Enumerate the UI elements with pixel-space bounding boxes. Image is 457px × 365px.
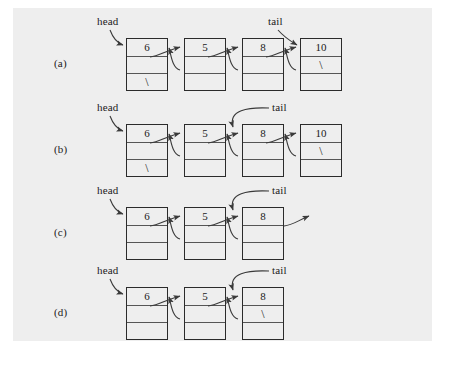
node-d-1-value: 5 xyxy=(185,288,225,305)
node-b-1-prev xyxy=(185,159,225,176)
head-label-row-b: head xyxy=(97,101,119,113)
node-c-0-prev xyxy=(127,242,167,259)
row-label-b: (b) xyxy=(54,143,67,155)
node-b-0-prev: \ xyxy=(127,159,167,176)
node-b-0: 6 \ xyxy=(126,124,168,177)
node-a-3-value: 10 xyxy=(301,39,341,56)
tail-label-row-d: tail xyxy=(272,264,287,276)
node-d-1-prev xyxy=(185,322,225,339)
node-a-0-value: 6 xyxy=(127,39,167,56)
node-d-1-next xyxy=(185,305,225,322)
figure-root: (a) head tail 6 \ 5 8 10 \ (b) head tail… xyxy=(0,0,457,365)
tail-label-row-a: tail xyxy=(268,15,283,27)
node-a-2: 8 xyxy=(242,38,284,91)
node-d-2: 8 \ xyxy=(242,287,284,340)
node-a-0-next xyxy=(127,56,167,73)
node-a-1: 5 xyxy=(184,38,226,91)
node-a-0-prev: \ xyxy=(127,73,167,90)
node-a-2-value: 8 xyxy=(243,39,283,56)
node-a-1-next xyxy=(185,56,225,73)
node-b-0-next xyxy=(127,142,167,159)
node-b-2-prev xyxy=(243,159,283,176)
node-b-2-value: 8 xyxy=(243,125,283,142)
node-a-3-prev xyxy=(301,73,341,90)
node-b-1: 5 xyxy=(184,124,226,177)
node-b-0-value: 6 xyxy=(127,125,167,142)
node-a-3: 10 \ xyxy=(300,38,342,91)
node-d-2-prev xyxy=(243,322,283,339)
node-c-2: 8 xyxy=(242,207,284,260)
tail-label-row-b: tail xyxy=(272,101,287,113)
node-c-1-prev xyxy=(185,242,225,259)
node-c-0: 6 xyxy=(126,207,168,260)
node-b-3-value: 10 xyxy=(301,125,341,142)
node-a-1-prev xyxy=(185,73,225,90)
node-b-3-next: \ xyxy=(301,142,341,159)
node-d-1: 5 xyxy=(184,287,226,340)
node-d-0-value: 6 xyxy=(127,288,167,305)
node-d-0-next xyxy=(127,305,167,322)
node-c-0-next xyxy=(127,225,167,242)
row-label-a: (a) xyxy=(54,57,67,69)
node-c-2-next xyxy=(243,225,283,242)
node-b-3-prev xyxy=(301,159,341,176)
node-a-1-value: 5 xyxy=(185,39,225,56)
node-c-2-value: 8 xyxy=(243,208,283,225)
node-c-1: 5 xyxy=(184,207,226,260)
node-a-2-prev xyxy=(243,73,283,90)
node-b-1-next xyxy=(185,142,225,159)
head-label-row-c: head xyxy=(97,184,119,196)
head-label-row-a: head xyxy=(97,15,119,27)
node-a-3-next: \ xyxy=(301,56,341,73)
node-d-2-value: 8 xyxy=(243,288,283,305)
head-label-row-d: head xyxy=(97,264,119,276)
node-b-3: 10 \ xyxy=(300,124,342,177)
node-c-0-value: 6 xyxy=(127,208,167,225)
node-b-2: 8 xyxy=(242,124,284,177)
node-c-2-prev xyxy=(243,242,283,259)
node-d-0: 6 xyxy=(126,287,168,340)
row-label-d: (d) xyxy=(54,306,67,318)
node-b-1-value: 5 xyxy=(185,125,225,142)
node-c-1-value: 5 xyxy=(185,208,225,225)
node-a-0: 6 \ xyxy=(126,38,168,91)
node-b-2-next xyxy=(243,142,283,159)
node-d-0-prev xyxy=(127,322,167,339)
tail-label-row-c: tail xyxy=(272,184,287,196)
node-a-2-next xyxy=(243,56,283,73)
row-label-c: (c) xyxy=(54,226,67,238)
node-d-2-next: \ xyxy=(243,305,283,322)
node-c-1-next xyxy=(185,225,225,242)
